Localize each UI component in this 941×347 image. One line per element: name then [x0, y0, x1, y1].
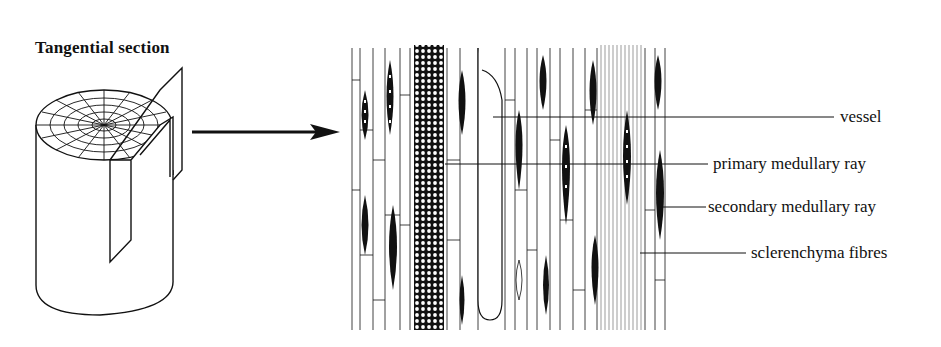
- vessel-element: [478, 48, 502, 320]
- label-vessel: vessel: [840, 108, 882, 125]
- label-primary-medullary-ray: primary medullary ray: [713, 155, 866, 172]
- label-sclerenchyma-fibres: sclerenchyma fibres: [751, 244, 887, 261]
- sclerenchyma-fibres-region: [600, 45, 642, 330]
- label-secondary-medullary-ray: secondary medullary ray: [708, 198, 876, 215]
- arrow-icon: [192, 124, 340, 140]
- diagram-canvas: [0, 0, 941, 347]
- tangential-section-detail: [350, 45, 668, 330]
- primary-medullary-ray: [414, 45, 444, 330]
- stem-block-illustration: [36, 68, 182, 315]
